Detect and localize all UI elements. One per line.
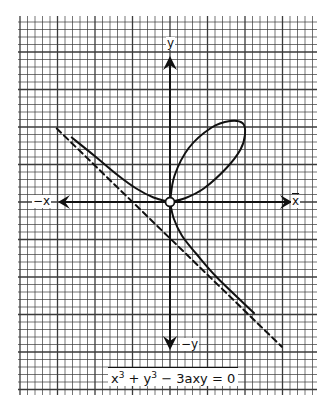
origin-marker-icon (166, 198, 175, 207)
eq-plus-y: + y (124, 371, 151, 386)
lower-branch-curve (170, 202, 254, 313)
eq-rest: − 3axy = 0 (157, 371, 235, 386)
neg-x-label: −x (32, 195, 51, 208)
pos-x-label: x (291, 195, 300, 208)
equation-label: x3 + y3 − 3axy = 0 (108, 367, 238, 386)
pos-y-label: y (166, 37, 175, 50)
axes (58, 56, 292, 350)
eq-x: x (111, 371, 119, 386)
neg-y-label: −y (180, 338, 199, 351)
